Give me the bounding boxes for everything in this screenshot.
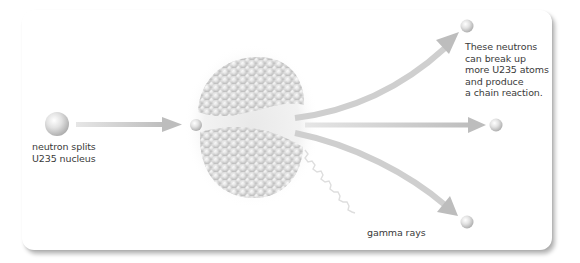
arrow-to-bottom-neutron [295,133,458,216]
absorbed-neutron-sphere [190,119,202,131]
arrow-to-middle-neutron [305,117,486,133]
fission-diagram [0,0,580,263]
gamma-rays-label: gamma rays [367,227,426,239]
incoming-arrow [76,117,182,132]
released-neutron-middle [490,119,503,132]
released-neutron-top [461,20,474,33]
released-neutron-bottom [461,216,474,229]
incoming-neutron-sphere [45,112,69,136]
incoming-neutron-label: neutron splits U235 nucleus [32,141,96,164]
chain-reaction-label: These neutrons can break up more U235 at… [465,41,549,99]
arrow-to-top-neutron [295,32,459,118]
